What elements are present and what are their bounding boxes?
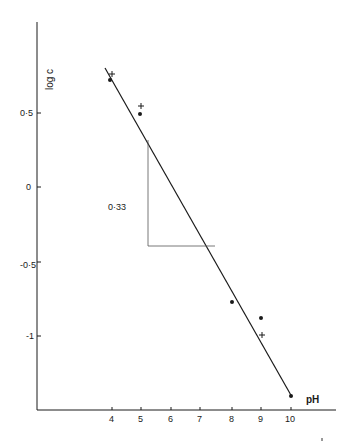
x-tick-label: 5: [138, 414, 143, 424]
x-tick-label: 6: [168, 414, 173, 424]
chart-canvas: 0·5 0 -0·5 -1 4 5 6 7 8 9 10 log c pH 0·…: [0, 0, 343, 442]
y-tick-label: 0·5: [20, 108, 33, 118]
y-ticks: 0·5 0 -0·5 -1: [20, 108, 41, 341]
y-tick-label: -1: [26, 331, 34, 341]
x-axis-label: pH: [306, 394, 319, 405]
data-point-dot: [230, 300, 234, 304]
slope-triangle: [148, 140, 215, 246]
data-point-cross: [138, 103, 144, 109]
x-tick-label: 7: [197, 414, 202, 424]
y-tick-label: -0·5: [20, 260, 36, 270]
x-tick-label: 9: [258, 414, 263, 424]
y-axis-label: log c: [44, 69, 55, 90]
slope-label: 0·33: [108, 202, 126, 212]
data-point-dot: [289, 394, 293, 398]
x-tick-label: 10: [285, 414, 295, 424]
cross-markers: [109, 71, 265, 338]
fit-line: [105, 68, 292, 397]
y-tick-label: 0: [26, 182, 31, 192]
data-point-cross: [259, 332, 265, 338]
data-point-dot: [138, 112, 142, 116]
data-point-dot: [108, 78, 112, 82]
x-tick-label: 4: [109, 414, 114, 424]
data-point-dot: [259, 316, 263, 320]
x-tick-label: 8: [229, 414, 234, 424]
